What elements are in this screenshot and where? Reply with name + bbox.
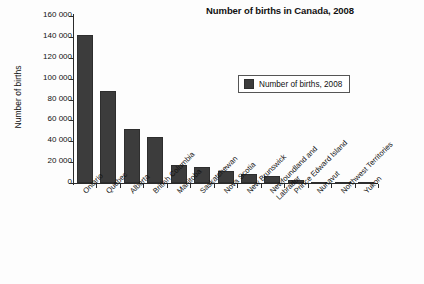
legend-swatch-icon (244, 79, 254, 89)
y-axis-tick-label: 120 000 (12, 52, 72, 61)
y-axis-tick-mark (69, 37, 73, 38)
chart-legend: Number of births, 2008 (238, 75, 350, 93)
y-axis-tick-label: 140 000 (12, 31, 72, 40)
bar (77, 35, 93, 183)
y-axis-tick-mark (69, 141, 73, 142)
chart-title: Number of births in Canada, 2008 (150, 5, 410, 16)
y-axis-tick-mark (69, 58, 73, 59)
y-axis-tick-mark (69, 120, 73, 121)
bar-chart: Number of births in Canada, 2008 Number … (0, 0, 424, 284)
y-axis-tick-label: 20 000 (12, 156, 72, 165)
y-axis-tick-mark (69, 16, 73, 17)
y-axis-tick-label: 60 000 (12, 114, 72, 123)
y-axis-tick-label: 100 000 (12, 73, 72, 82)
y-axis-tick-mark (69, 162, 73, 163)
y-axis-tick-label: 80 000 (12, 94, 72, 103)
y-axis-tick-mark (69, 79, 73, 80)
y-axis-tick-mark (69, 100, 73, 101)
y-axis-tick-mark (69, 183, 73, 184)
legend-label: Number of births, 2008 (259, 80, 342, 89)
y-axis-tick-label: 0 (12, 177, 72, 186)
y-axis-tick-label: 160 000 (12, 10, 72, 19)
y-axis-tick-label: 40 000 (12, 135, 72, 144)
bar (100, 91, 116, 183)
